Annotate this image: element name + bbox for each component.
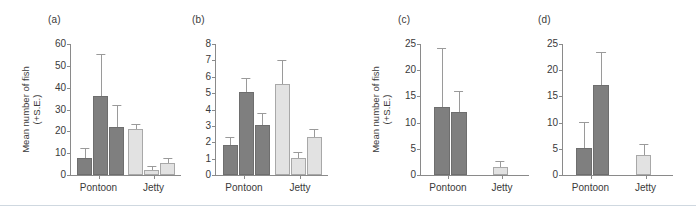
error-bar (101, 54, 102, 97)
panel-label: (b) (192, 14, 205, 25)
error-bar (644, 144, 645, 155)
y-axis-tick-label: 6 (205, 72, 211, 82)
y-axis-tick (67, 131, 71, 132)
bar (255, 125, 270, 175)
chart-panel-b: (b)012345678PontoonJetty (175, 0, 350, 206)
y-axis-tick (212, 175, 216, 176)
bar (77, 158, 92, 175)
x-axis-category-label: Jetty (143, 182, 164, 193)
error-bar (85, 148, 86, 158)
error-bar-cap (454, 91, 464, 92)
y-axis-tick-label: 20 (547, 65, 558, 75)
y-axis-tick (212, 159, 216, 160)
panel-label: (c) (398, 14, 410, 25)
plot-area: 012345678PontoonJetty (215, 44, 328, 176)
chart-panel-a: (a)Mean number of fish(+S.E.)01020304050… (0, 0, 175, 206)
y-axis-tick (212, 93, 216, 94)
x-axis-tick (300, 175, 301, 179)
chart-panel-d: (d)0510152025PontoonJetty (520, 0, 696, 206)
y-axis-tick (559, 175, 563, 176)
y-axis-tick-label: 2 (205, 137, 211, 147)
x-axis-tick (99, 175, 100, 179)
bar (160, 163, 175, 175)
error-bar-cap (309, 129, 318, 130)
y-axis-tick-label: 0 (205, 170, 211, 180)
y-axis-tick (67, 175, 71, 176)
y-axis-tick-label: 5 (205, 88, 211, 98)
bar (93, 96, 108, 175)
error-bar-cap (277, 60, 286, 61)
figure-canvas: (a)Mean number of fish(+S.E.)01020304050… (0, 0, 696, 206)
x-axis-tick (591, 175, 592, 179)
bar (593, 85, 609, 175)
error-bar-cap (241, 78, 250, 79)
y-axis-tick (212, 44, 216, 45)
y-axis-tick-label: 0 (410, 170, 416, 180)
y-axis-tick-label: 0 (552, 170, 558, 180)
y-axis-tick-label: 50 (55, 61, 66, 71)
y-axis-tick (67, 66, 71, 67)
error-bar-cap (257, 113, 266, 114)
error-bar-cap (131, 124, 140, 125)
y-axis-tick-label: 10 (547, 118, 558, 128)
y-axis-tick (417, 96, 421, 97)
bar (451, 112, 467, 175)
error-bar-cap (639, 144, 648, 145)
y-axis-title-line: (+S.E.) (31, 44, 42, 175)
x-axis-category-label: Pontoon (225, 182, 262, 193)
y-axis-tick-label: 5 (410, 144, 416, 154)
error-bar-cap (225, 137, 234, 138)
y-axis-tick (417, 44, 421, 45)
bar (493, 167, 508, 175)
y-axis-tick (212, 142, 216, 143)
bar (239, 92, 254, 175)
y-axis-tick (212, 110, 216, 111)
error-bar (282, 60, 283, 84)
panel-label: (a) (48, 14, 61, 25)
y-axis-tick-label: 15 (405, 91, 416, 101)
y-axis-tick-label: 25 (405, 39, 416, 49)
y-axis-tick (559, 149, 563, 150)
error-bar-cap (579, 122, 589, 123)
error-bar (230, 137, 231, 145)
y-axis-title: Mean number of fish(+S.E.) (20, 44, 42, 175)
error-bar (314, 129, 315, 136)
panel-label: (d) (538, 14, 551, 25)
x-axis-tick (646, 175, 647, 179)
bar (223, 145, 238, 175)
figure-bottom-rule (0, 205, 696, 206)
bar (291, 158, 306, 175)
error-bar-cap (596, 52, 606, 53)
y-axis-tick (212, 126, 216, 127)
bar (128, 129, 143, 175)
y-axis-tick-label: 1 (205, 154, 211, 164)
y-axis-tick (67, 110, 71, 111)
y-axis-title-line: Mean number of fish (370, 44, 381, 175)
y-axis-tick-label: 10 (55, 148, 66, 158)
bar (109, 127, 124, 175)
x-axis-category-label: Pontoon (429, 182, 466, 193)
x-axis-category-label: Jetty (491, 182, 512, 193)
y-axis-tick-label: 5 (552, 144, 558, 154)
x-axis-tick (448, 175, 449, 179)
error-bar (459, 91, 460, 112)
error-bar (442, 48, 443, 107)
error-bar (601, 52, 602, 85)
y-axis-tick (212, 77, 216, 78)
error-bar-cap (112, 105, 121, 106)
y-axis-tick-label: 7 (205, 55, 211, 65)
error-bar-cap (495, 161, 504, 162)
plot-area: 0510152025PontoonJetty (562, 44, 673, 176)
error-bar-cap (96, 54, 105, 55)
bar (307, 137, 322, 175)
plot-area: 0510152025PontoonJetty (420, 44, 529, 176)
error-bar-cap (147, 166, 156, 167)
y-axis-tick (417, 175, 421, 176)
x-axis-tick (244, 175, 245, 179)
y-axis-tick (417, 70, 421, 71)
y-axis-title-line: (+S.E.) (381, 44, 392, 175)
y-axis-tick (67, 88, 71, 89)
y-axis-tick-label: 20 (55, 126, 66, 136)
y-axis-tick-label: 0 (60, 170, 66, 180)
y-axis-title: Mean number of fish(+S.E.) (370, 44, 392, 175)
